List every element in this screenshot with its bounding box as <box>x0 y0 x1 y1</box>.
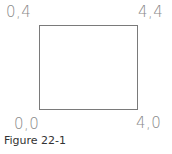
label-top-left: 0,4 <box>6 5 31 20</box>
label-bottom-left: 0,0 <box>14 117 39 132</box>
label-bottom-right: 4,0 <box>136 116 161 131</box>
label-top-right: 4,4 <box>138 5 163 20</box>
square-outline <box>39 25 138 110</box>
figure-caption: Figure 22-1 <box>4 135 66 146</box>
